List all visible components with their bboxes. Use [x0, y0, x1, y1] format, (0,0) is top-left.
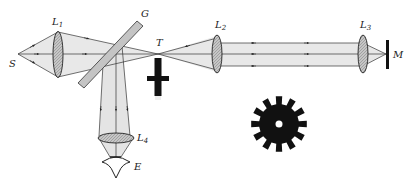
light-beams: [18, 32, 386, 157]
label-lens2: L2: [214, 19, 227, 32]
wheel-edge-at-t: [147, 58, 169, 100]
labels: S L1 G T L2 L3 M L4 E: [9, 8, 404, 172]
lens-l2: [212, 35, 222, 73]
mirror-m: [386, 40, 389, 69]
lens-l1: [53, 32, 63, 78]
label-lens3: L3: [359, 19, 372, 32]
label-lens4: L4: [136, 132, 148, 145]
toothed-wheel-icon: [251, 96, 307, 152]
label-mirror: M: [392, 49, 404, 60]
fizeau-diagram: S L1 G T L2 L3 M L4 E: [0, 0, 417, 184]
beam-source-to-lens1: [18, 32, 58, 77]
eye-icon: [102, 157, 130, 178]
label-eye: E: [133, 161, 142, 172]
lens-l4: [98, 133, 134, 143]
wheel-hub: [276, 121, 283, 128]
label-focal-point: T: [156, 37, 164, 48]
collimated-beam: [217, 43, 363, 66]
label-source: S: [9, 58, 16, 69]
lens-l3: [358, 35, 368, 73]
label-lens1: L1: [51, 16, 63, 29]
label-glass-plate: G: [141, 8, 149, 19]
